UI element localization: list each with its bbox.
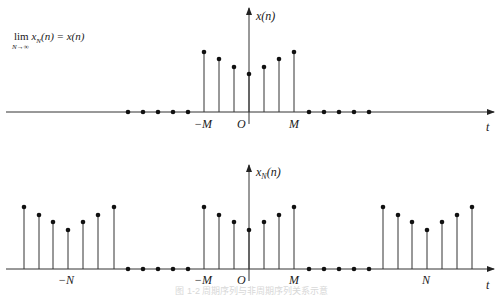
stem-dot — [440, 220, 445, 225]
stem-dot — [66, 228, 71, 233]
stem-dot — [96, 213, 101, 218]
stem-dot — [247, 228, 252, 233]
sequence-diagram: x(n) t −M O M xN(n) t −N −M O M N — [0, 0, 504, 298]
zero-sample-dot — [322, 110, 327, 115]
figure-caption: 图 1-2 周期序列与非周期序列关系示意 — [0, 284, 504, 297]
zero-sample-dot — [367, 110, 372, 115]
stem-dot — [277, 213, 282, 218]
stem-dot — [37, 213, 42, 218]
zero-sample-dot — [337, 110, 342, 115]
zero-sample-dot — [352, 110, 357, 115]
stem-dot — [232, 65, 237, 70]
zero-sample-dot — [367, 267, 372, 272]
top-plot-x-n — [6, 8, 494, 124]
stem-dot — [381, 205, 386, 210]
zero-sample-dot — [126, 110, 131, 115]
zero-sample-dot — [307, 267, 312, 272]
stem-dot — [410, 220, 415, 225]
top-ylabel: x(n) — [255, 9, 275, 23]
stem-dot — [292, 50, 297, 55]
stem-dot — [425, 228, 430, 233]
stem-dot — [232, 220, 237, 225]
top-tick-origin: O — [237, 117, 246, 131]
stem-dot — [247, 72, 252, 77]
stem-dot — [202, 205, 207, 210]
zero-sample-dot — [186, 267, 191, 272]
zero-sample-dot — [156, 110, 161, 115]
zero-sample-dot — [156, 267, 161, 272]
stem-dot — [262, 220, 267, 225]
zero-sample-dot — [171, 267, 176, 272]
stem-dot — [112, 205, 117, 210]
zero-sample-dot — [171, 110, 176, 115]
stem-dot — [202, 50, 207, 55]
stem-dot — [217, 57, 222, 62]
zero-sample-dot — [337, 267, 342, 272]
zero-sample-dot — [352, 267, 357, 272]
stem-dot — [396, 213, 401, 218]
top-xlabel: t — [486, 120, 490, 134]
stem-dot — [262, 65, 267, 70]
top-tick-neg-m: −M — [194, 117, 213, 131]
stem-dot — [470, 205, 475, 210]
stem-dot — [292, 205, 297, 210]
bottom-ylabel: xN(n) — [255, 165, 281, 181]
stem-dot — [22, 205, 27, 210]
zero-sample-dot — [322, 267, 327, 272]
zero-sample-dot — [126, 267, 131, 272]
stem-dot — [81, 220, 86, 225]
stem-dot — [455, 213, 460, 218]
zero-sample-dot — [141, 110, 146, 115]
bottom-plot-xN-n — [6, 165, 494, 281]
stem-dot — [217, 213, 222, 218]
stem-dot — [277, 57, 282, 62]
top-tick-m: M — [288, 117, 300, 131]
zero-sample-dot — [186, 110, 191, 115]
stem-dot — [51, 220, 56, 225]
zero-sample-dot — [307, 110, 312, 115]
zero-sample-dot — [141, 267, 146, 272]
